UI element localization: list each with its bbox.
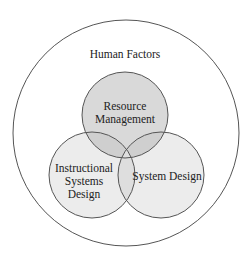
label-human-factors: Human Factors xyxy=(90,48,161,60)
label-system-design: System Design xyxy=(132,170,202,183)
label-resource-line1: Resource xyxy=(104,100,147,112)
label-instructional-line3: Design xyxy=(68,188,101,201)
label-instructional-line2: Systems xyxy=(65,175,104,188)
label-resource-line2: Management xyxy=(95,113,156,126)
venn-diagram: Human Factors Resource Management Instru… xyxy=(0,0,249,263)
label-instructional-line1: Instructional xyxy=(55,162,113,174)
